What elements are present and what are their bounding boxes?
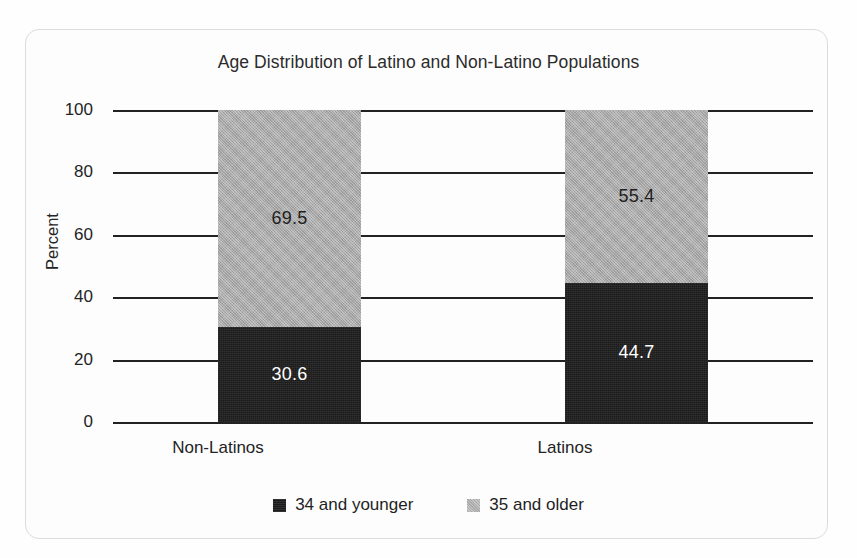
legend-label-34-and-younger: 34 and younger — [295, 495, 413, 515]
y-tick-label-100: 100 — [33, 100, 93, 120]
y-tick-label-40: 40 — [33, 287, 93, 307]
y-tick-label-60: 60 — [33, 225, 93, 245]
legend-label-35-and-older: 35 and older — [489, 495, 584, 515]
y-tick-label-20: 20 — [33, 350, 93, 370]
figure-page: Age Distribution of Latino and Non-Latin… — [0, 0, 857, 558]
legend-swatch-gray-icon — [467, 499, 480, 512]
bar-value-non-latinos-35-and-older: 69.5 — [272, 209, 308, 227]
bar-value-latinos-35-and-older: 55.4 — [619, 187, 655, 205]
legend-swatch-dark-icon — [273, 499, 286, 512]
bar-segment-non-latinos-35-and-older[interactable]: 69.5 — [218, 110, 361, 327]
x-axis-category-non-latinos: Non-Latinos — [88, 438, 348, 458]
x-axis-category-latinos: Latinos — [435, 438, 695, 458]
bar-value-non-latinos-34-and-younger: 30.6 — [272, 365, 308, 383]
bar-segment-latinos-35-and-older[interactable]: 55.4 — [565, 110, 708, 283]
chart-title: Age Distribution of Latino and Non-Latin… — [0, 52, 857, 73]
legend-item-35-and-older[interactable]: 35 and older — [467, 495, 584, 515]
y-tick-label-80: 80 — [33, 162, 93, 182]
bar-value-latinos-34-and-younger: 44.7 — [619, 343, 655, 361]
legend-item-34-and-younger[interactable]: 34 and younger — [273, 495, 413, 515]
plot-area: 30.6 69.5 44.7 55.4 — [113, 110, 813, 422]
bar-segment-non-latinos-34-and-younger[interactable]: 30.6 — [218, 327, 361, 423]
y-axis-tick-labels: 100 80 60 40 20 0 — [33, 110, 93, 422]
chart-legend: 34 and younger 35 and older — [0, 495, 857, 515]
y-tick-label-0: 0 — [33, 412, 93, 432]
axis-baseline-0 — [113, 422, 813, 424]
bar-segment-latinos-34-and-younger[interactable]: 44.7 — [565, 283, 708, 423]
